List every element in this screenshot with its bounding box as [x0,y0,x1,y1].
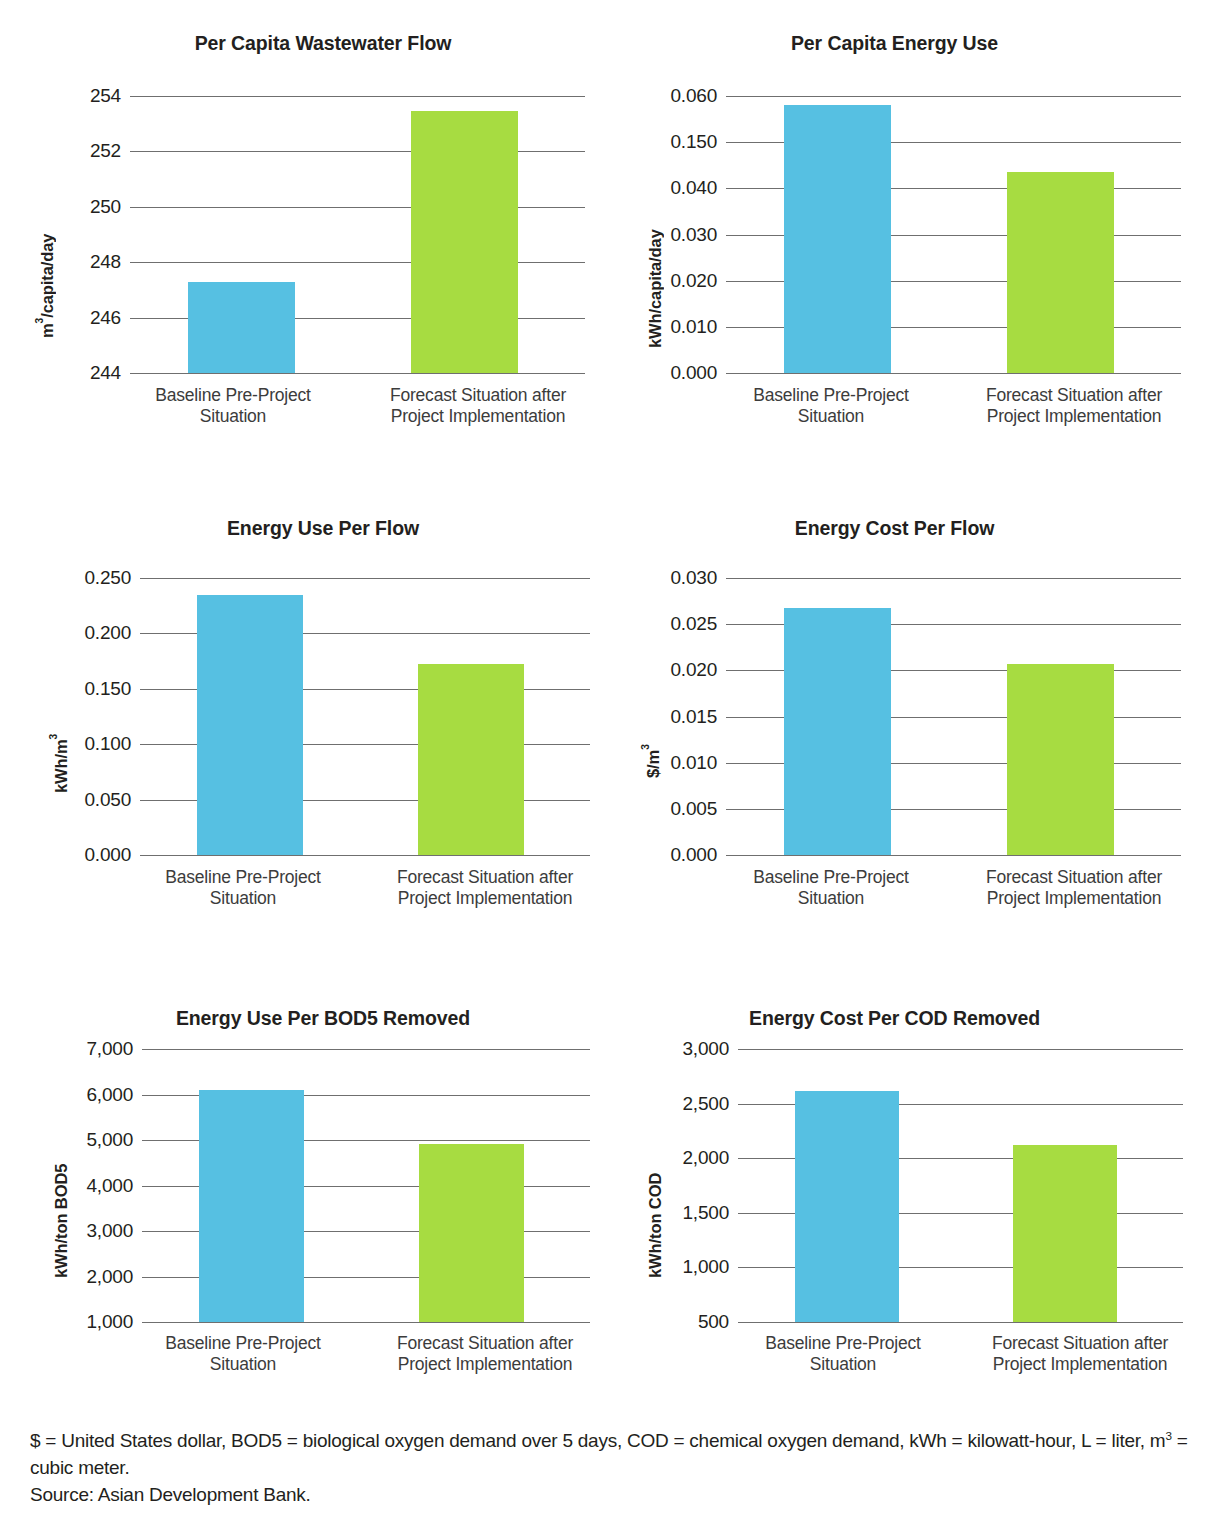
x-tick-label-line1: Baseline Pre-Project [128,1333,358,1354]
x-tick-label-line1: Forecast Situation after [358,385,598,406]
y-tick-label: 0.000 [670,844,717,866]
gridline [140,855,590,856]
y-tick-label: 6,000 [86,1084,133,1106]
chart-title: Energy Use Per BOD5 Removed [0,1007,610,1030]
x-tick-label-forecast: Forecast Situation after Project Impleme… [954,385,1194,428]
x-tick-label-line2: Project Implementation [954,888,1194,909]
x-tick-label-line1: Baseline Pre-Project [128,867,358,888]
y-tick-label: 1,000 [682,1256,729,1278]
bar-forecast [1013,1145,1118,1322]
chart-per-capita-energy-use: Per Capita Energy Use kWh/capita/day 0.0… [610,18,1213,503]
plot-area: 3,0002,5002,0001,5001,000500 [738,1049,1183,1322]
y-axis-label-text: $/m [644,750,662,778]
plot-area: 0.0600.1500.0400.0300.0200.0100.000 [726,96,1181,373]
gridline [726,855,1181,856]
x-tick-label-line1: Forecast Situation after [960,1333,1200,1354]
plot-area: 0.0300.0250.0200.0150.0100.0050.000 [726,578,1181,855]
gridline [130,373,585,374]
y-axis-label-text: kWh/capita/day [646,229,664,348]
y-axis-label-exponent: 3 [48,734,59,740]
chart-title: Per Capita Wastewater Flow [0,32,610,55]
y-axis-label: m3/capita/day [34,138,57,338]
bar-baseline [784,105,891,373]
gridline [726,373,1181,374]
bar-baseline [199,1090,304,1322]
figure-sheet: Per Capita Wastewater Flow m3/capita/day… [0,0,1213,1521]
y-tick-label: 0.010 [670,316,717,338]
y-axis-label-text: kWh/m [52,739,70,793]
x-tick-label-line2: Situation [128,1354,358,1375]
x-tick-label-line1: Baseline Pre-Project [716,867,946,888]
gridline [142,1322,590,1323]
y-axis-label: $/m3 [640,683,663,778]
chart-energy-use-per-flow: Energy Use Per Flow kWh/m3 0.2500.2000.1… [0,503,610,993]
y-tick-label: 252 [90,140,121,162]
figure-source: Source: Asian Development Bank. [30,1482,1200,1509]
x-tick-label-baseline: Baseline Pre-Project Situation [728,1333,958,1376]
x-tick-label-line2: Project Implementation [960,1354,1200,1375]
y-tick-label: 2,500 [682,1093,729,1115]
gridline [738,1322,1183,1323]
y-axis-label-text: kWh/ton BOD5 [52,1164,70,1278]
plot-area: 7,0006,0005,0004,0003,0002,0001,000 [142,1049,590,1322]
y-tick-label: 3,000 [86,1220,133,1242]
x-tick-label-baseline: Baseline Pre-Project Situation [128,1333,358,1376]
x-tick-label-baseline: Baseline Pre-Project Situation [128,867,358,910]
y-tick-label: 0.060 [670,85,717,107]
y-tick-label: 0.020 [670,270,717,292]
gridline [738,1049,1183,1050]
x-tick-label-line1: Forecast Situation after [365,1333,605,1354]
x-tick-label-forecast: Forecast Situation after Project Impleme… [365,1333,605,1376]
x-tick-label-line1: Forecast Situation after [954,385,1194,406]
y-tick-label: 4,000 [86,1175,133,1197]
chart-title: Energy Cost Per Flow [610,517,1213,540]
x-tick-label-line2: Project Implementation [365,888,605,909]
y-tick-label: 1,000 [86,1311,133,1333]
plot-area: 254252250248246244 [130,96,585,373]
y-axis-label-text: m [38,323,56,338]
chart-title: Energy Use Per Flow [0,517,610,540]
y-tick-label: 248 [90,251,121,273]
y-tick-label: 250 [90,196,121,218]
y-axis-label-exponent: 3 [640,744,651,750]
gridline [130,96,585,97]
x-tick-label-line2: Situation [716,406,946,427]
y-tick-label: 0.030 [670,224,717,246]
y-tick-label: 0.000 [670,362,717,384]
x-tick-label-forecast: Forecast Situation after Project Impleme… [954,867,1194,910]
y-tick-label: 254 [90,85,121,107]
chart-title: Per Capita Energy Use [610,32,1213,55]
y-axis-label-text: kWh/ton COD [646,1173,664,1278]
y-axis-label: kWh/m3 [48,663,71,793]
y-tick-label: 244 [90,362,121,384]
bar-forecast [418,664,524,855]
footnote-m: m [1150,1430,1166,1451]
y-tick-label: 0.005 [670,798,717,820]
x-tick-label-line2: Project Implementation [954,406,1194,427]
y-tick-label: 0.000 [84,844,131,866]
figure-footnote: $ = United States dollar, BOD5 = biologi… [30,1428,1200,1509]
y-tick-label: 0.200 [84,622,131,644]
chart-energy-cost-per-flow: Energy Cost Per Flow $/m3 0.0300.0250.02… [610,503,1213,993]
x-tick-label-line1: Baseline Pre-Project [118,385,348,406]
y-axis-label-exponent: 3 [34,318,45,324]
y-tick-label: 0.015 [670,706,717,728]
chart-title: Energy Cost Per COD Removed [610,1007,1213,1030]
x-tick-label-line2: Situation [716,888,946,909]
x-tick-label-line2: Situation [728,1354,958,1375]
y-tick-label: 0.150 [84,678,131,700]
x-tick-label-line1: Baseline Pre-Project [716,385,946,406]
y-tick-label: 0.025 [670,613,717,635]
y-tick-label: 7,000 [86,1038,133,1060]
x-tick-label-line1: Forecast Situation after [365,867,605,888]
chart-energy-cost-per-cod-removed: Energy Cost Per COD Removed kWh/ton COD … [610,993,1213,1393]
y-tick-label: 1,500 [682,1202,729,1224]
bar-baseline [784,608,891,855]
gridline [142,1049,590,1050]
x-tick-label-baseline: Baseline Pre-Project Situation [716,385,946,428]
y-tick-label: 2,000 [682,1147,729,1169]
x-tick-label-forecast: Forecast Situation after Project Impleme… [365,867,605,910]
y-tick-label: 0.010 [670,752,717,774]
bar-baseline [197,595,303,855]
y-axis-label: kWh/ton BOD5 [48,1088,71,1278]
